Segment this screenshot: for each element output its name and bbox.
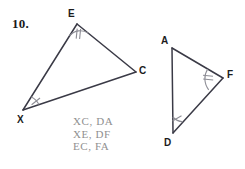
triangle-adf: [172, 48, 223, 133]
problem-figure-page: 10.: [0, 0, 245, 169]
correspondence-line-1: XC, DA: [73, 115, 113, 128]
segment-af: [172, 48, 223, 78]
vertex-label-c: C: [139, 66, 146, 76]
vertex-label-a: A: [161, 36, 168, 46]
segment-xc: [23, 72, 136, 110]
triangle-xec: [23, 24, 136, 110]
geometry-diagram: [0, 0, 245, 169]
angle-mark-x-single-tick: [31, 97, 40, 105]
correspondence-line-3: EC, FA: [73, 140, 113, 153]
angle-mark-d-single-tick: [173, 116, 183, 122]
segment-xe: [23, 24, 77, 110]
vertex-label-e: E: [68, 9, 75, 19]
correspondence-line-2: XE, DF: [73, 128, 113, 141]
correspondence-list: XC, DA XE, DF EC, FA: [73, 115, 113, 153]
segment-ec: [77, 24, 136, 72]
segment-fd: [173, 78, 223, 133]
vertex-label-d: D: [164, 138, 171, 148]
vertex-label-x: X: [17, 115, 24, 125]
vertex-label-f: F: [227, 70, 233, 80]
